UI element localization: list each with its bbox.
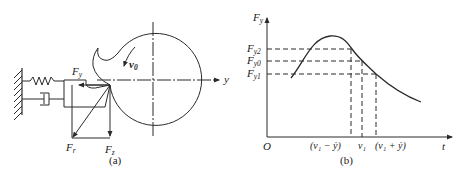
caption-a: (a) [109, 155, 121, 166]
tool-holder [64, 80, 110, 107]
tick-v1: v₁ [358, 141, 366, 151]
tick-fy1: Fy1 [247, 68, 261, 81]
label-y-axis: y [224, 74, 229, 85]
tick-v1-plus: (v₁ + ẏ) [375, 141, 406, 151]
label-v0: v0 [129, 59, 138, 72]
label-origin: O [263, 141, 271, 152]
fr-vector [73, 85, 110, 137]
spring [22, 77, 64, 85]
guide-lines [267, 49, 376, 137]
label-fr: Fr [66, 142, 76, 155]
label-fy-a: Fy [72, 66, 82, 79]
tick-v1-minus: (v₁ − ẏ) [310, 141, 341, 151]
label-t-axis: t [442, 141, 445, 152]
fixed-wall [14, 68, 22, 120]
workpiece [93, 33, 202, 125]
caption-b: (b) [340, 155, 353, 166]
damper [22, 93, 64, 105]
force-velocity-curve [291, 36, 421, 102]
figure-b [267, 18, 452, 137]
figure-a [14, 22, 219, 138]
tick-fy0: Fy0 [247, 55, 261, 68]
label-fy-axis: Fy [253, 12, 263, 25]
